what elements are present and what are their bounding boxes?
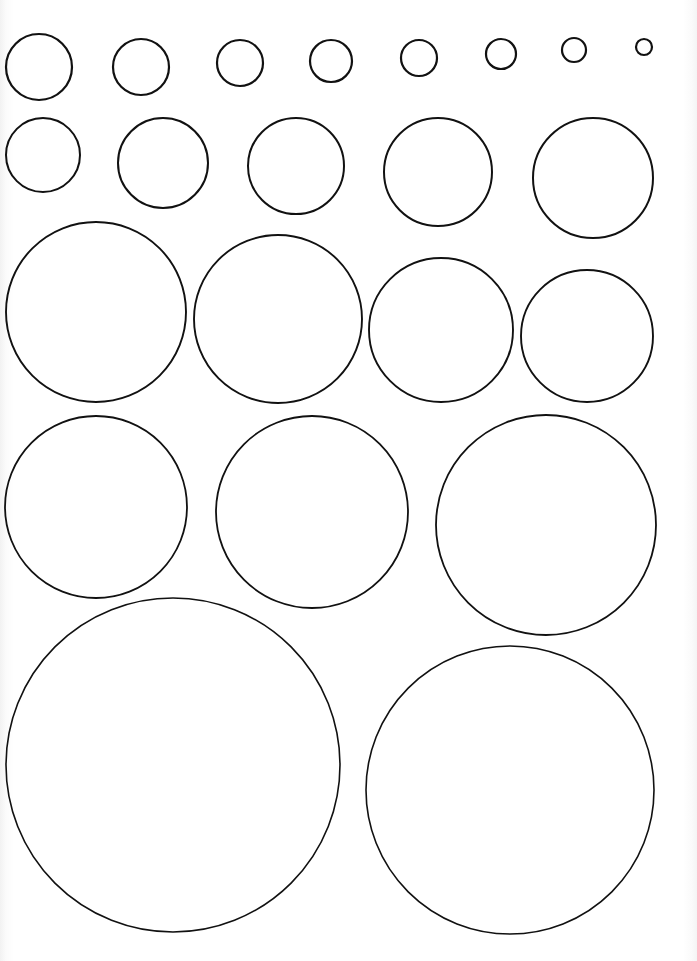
circle-row-4 bbox=[5, 415, 656, 635]
circle-outline bbox=[533, 118, 653, 238]
circle-row-3 bbox=[6, 222, 653, 403]
circle-row-5 bbox=[6, 598, 654, 934]
circle-outline bbox=[6, 118, 80, 192]
circle-outline bbox=[401, 40, 437, 76]
worksheet-page bbox=[0, 0, 697, 961]
circle-outline bbox=[486, 39, 516, 69]
circle-outline bbox=[636, 39, 652, 55]
circle-outline bbox=[6, 34, 72, 100]
circle-template-canvas bbox=[0, 0, 697, 961]
circle-outline bbox=[310, 40, 352, 82]
circle-outline bbox=[366, 646, 654, 934]
circle-outline bbox=[436, 415, 656, 635]
circle-outline bbox=[248, 118, 344, 214]
circle-outline bbox=[521, 270, 653, 402]
circle-row-2 bbox=[6, 118, 653, 238]
circle-outline bbox=[562, 38, 586, 62]
circle-outline bbox=[5, 416, 187, 598]
circle-outline bbox=[384, 118, 492, 226]
circle-outline bbox=[217, 40, 263, 86]
circle-outline bbox=[194, 235, 362, 403]
circle-outline bbox=[118, 118, 208, 208]
circle-outline bbox=[6, 598, 340, 932]
circle-row-1 bbox=[6, 34, 652, 100]
circle-outline bbox=[369, 258, 513, 402]
circle-outline bbox=[6, 222, 186, 402]
circle-outline bbox=[216, 416, 408, 608]
circle-outline bbox=[113, 39, 169, 95]
